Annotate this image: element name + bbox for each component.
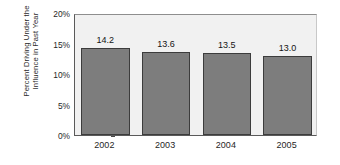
x-axis-tick-label: 2003 [135,140,196,150]
y-axis-tick-label: 20% [40,9,70,19]
bar[interactable] [142,52,191,135]
x-axis-tick-label: 2002 [74,140,135,150]
bars-layer: 14.213.613.513.0 [75,15,316,135]
bar[interactable] [263,56,312,135]
y-axis-tick-label: 0% [40,131,70,141]
bar[interactable] [81,48,130,135]
x-axis-tick-labels: 2002200320042005 [74,140,317,156]
bar-group: 13.0 [263,15,312,135]
y-axis-tick-label: 15% [40,40,70,50]
y-axis-tick-label: 5% [40,101,70,111]
bar-chart-figure: Percent Driving Under the Influence in P… [0,0,340,165]
bar-value-label: 13.5 [203,40,252,50]
bar-value-label: 13.6 [142,39,191,49]
bar-group: 14.2 [81,15,130,135]
y-axis-tick-mark [111,136,115,137]
plot-area: 14.213.613.513.0 [74,14,317,136]
bar-group: 13.5 [203,15,252,135]
y-axis-tick-labels: 0%5%10%15%20% [40,8,70,142]
y-axis-tick-label: 10% [40,70,70,80]
bar-group: 13.6 [142,15,191,135]
bar[interactable] [203,53,252,135]
bar-value-label: 14.2 [81,35,130,45]
x-axis-tick-label: 2004 [196,140,257,150]
bar-value-label: 13.0 [263,43,312,53]
x-axis-tick-label: 2005 [256,140,317,150]
